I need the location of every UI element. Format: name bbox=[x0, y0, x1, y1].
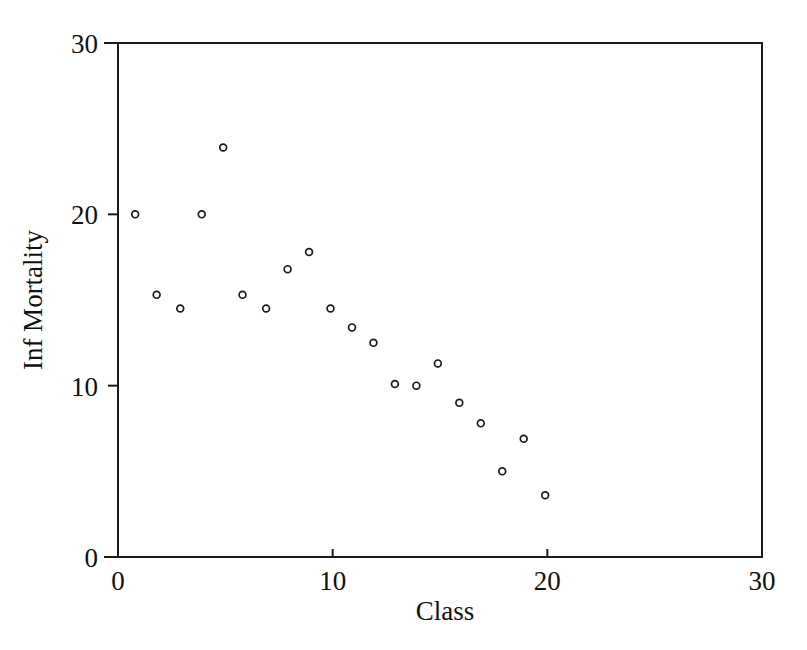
x-tick-label: 20 bbox=[534, 566, 561, 596]
y-tick-label: 30 bbox=[71, 29, 98, 59]
data-point bbox=[220, 144, 227, 151]
data-point bbox=[327, 305, 334, 312]
y-tick-label: 20 bbox=[71, 200, 98, 230]
x-tick-label: 10 bbox=[319, 566, 346, 596]
plot-canvas: 01020300102030 Class Inf Mortality bbox=[0, 0, 807, 650]
data-point bbox=[132, 211, 139, 218]
data-point bbox=[306, 249, 313, 256]
data-point bbox=[520, 435, 527, 442]
axis-tick-labels: 01020300102030 bbox=[71, 29, 776, 596]
data-point bbox=[349, 324, 356, 331]
y-tick-label: 0 bbox=[85, 543, 99, 573]
x-axis-title: Class bbox=[416, 596, 475, 626]
y-tick-label: 10 bbox=[71, 372, 98, 402]
plot-frame-box bbox=[118, 43, 762, 557]
data-point bbox=[370, 339, 377, 346]
data-point bbox=[456, 399, 463, 406]
data-point bbox=[263, 305, 270, 312]
data-point bbox=[392, 381, 399, 388]
x-tick-label: 0 bbox=[111, 566, 125, 596]
data-point-markers bbox=[132, 144, 549, 499]
data-point bbox=[434, 360, 441, 367]
data-point bbox=[198, 211, 205, 218]
data-point bbox=[284, 266, 291, 273]
data-point bbox=[542, 492, 549, 499]
data-point bbox=[499, 468, 506, 475]
data-point bbox=[153, 291, 160, 298]
data-point bbox=[239, 291, 246, 298]
axis-ticks bbox=[104, 43, 762, 557]
scatter-plot-figure: 01020300102030 Class Inf Mortality bbox=[0, 0, 807, 650]
y-axis-title: Inf Mortality bbox=[18, 229, 48, 370]
data-point bbox=[413, 382, 420, 389]
plot-frame bbox=[118, 43, 762, 557]
data-point bbox=[177, 305, 184, 312]
x-tick-label: 30 bbox=[749, 566, 776, 596]
data-point bbox=[477, 420, 484, 427]
